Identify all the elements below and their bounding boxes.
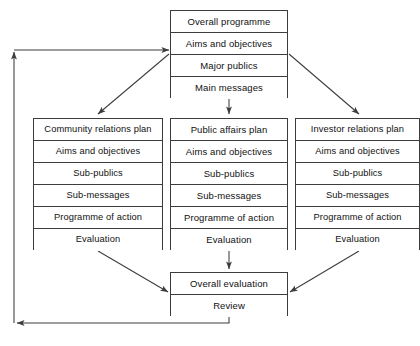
overall-programme-row-messages: Main messages: [171, 77, 287, 99]
community-row-sub-publics: Sub-publics: [34, 163, 162, 185]
public-affairs-row-aims: Aims and objectives: [171, 141, 287, 163]
public-affairs-row-title: Public affairs plan: [171, 119, 287, 141]
community-row-title: Community relations plan: [34, 119, 162, 141]
public-affairs-row-evaluation: Evaluation: [171, 229, 287, 251]
investor-row-evaluation: Evaluation: [296, 229, 419, 251]
public-affairs-row-sub-publics: Sub-publics: [171, 163, 287, 185]
investor-to-evaluation-arrow: [290, 251, 359, 292]
overall-evaluation-box[interactable]: Overall evaluation Review: [170, 272, 288, 316]
overall-programme-row-title: Overall programme: [171, 11, 287, 33]
investor-row-aims: Aims and objectives: [296, 141, 419, 163]
top-to-community-arrow: [98, 54, 169, 114]
diagram-canvas: Overall programme Aims and objectives Ma…: [0, 0, 420, 346]
top-to-investor-arrow: [289, 54, 359, 114]
investor-row-sub-messages: Sub-messages: [296, 185, 419, 207]
review-row: Review: [171, 295, 287, 317]
public-affairs-row-sub-messages: Sub-messages: [171, 185, 287, 207]
overall-programme-row-publics: Major publics: [171, 55, 287, 77]
investor-relations-plan-box[interactable]: Investor relations plan Aims and objecti…: [295, 118, 420, 250]
community-relations-plan-box[interactable]: Community relations plan Aims and object…: [33, 118, 163, 250]
community-to-evaluation-arrow: [98, 251, 168, 292]
community-row-programme-of-action: Programme of action: [34, 207, 162, 229]
public-affairs-plan-box[interactable]: Public affairs plan Aims and objectives …: [170, 118, 288, 250]
community-row-evaluation: Evaluation: [34, 229, 162, 251]
community-row-aims: Aims and objectives: [34, 141, 162, 163]
overall-evaluation-row: Overall evaluation: [171, 273, 287, 295]
overall-programme-row-aims: Aims and objectives: [171, 33, 287, 55]
public-affairs-row-programme-of-action: Programme of action: [171, 207, 287, 229]
community-row-sub-messages: Sub-messages: [34, 185, 162, 207]
investor-row-title: Investor relations plan: [296, 119, 419, 141]
overall-programme-box[interactable]: Overall programme Aims and objectives Ma…: [170, 10, 288, 98]
investor-row-sub-publics: Sub-publics: [296, 163, 419, 185]
investor-row-programme-of-action: Programme of action: [296, 207, 419, 229]
